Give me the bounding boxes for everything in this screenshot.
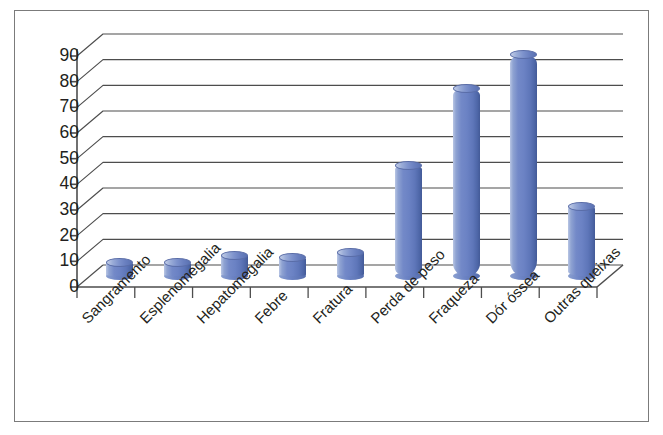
x-axis-category-label: Outras queixas bbox=[541, 244, 623, 326]
x-axis-category-label: Febre bbox=[252, 287, 290, 325]
x-axis-labels: SangramentoEsplenomegaliaHepatomegaliaFe… bbox=[15, 11, 650, 423]
plot-area: 0102030405060708090 SangramentoEsplenome… bbox=[15, 11, 650, 423]
x-axis-category-label: Fraqueza bbox=[425, 270, 480, 325]
x-axis-category-label: Fratura bbox=[310, 281, 355, 326]
x-axis-category-label: Dór óssea bbox=[483, 267, 542, 326]
chart-border-frame: 0102030405060708090 SangramentoEsplenome… bbox=[14, 10, 649, 422]
chart-figure: 0102030405060708090 SangramentoEsplenome… bbox=[0, 0, 663, 435]
